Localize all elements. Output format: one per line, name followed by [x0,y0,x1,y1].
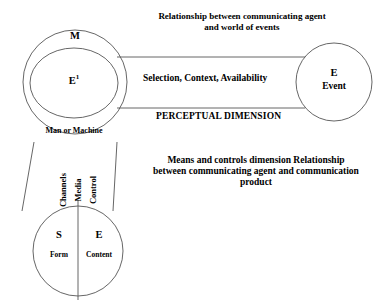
event-letter: E [320,67,348,79]
product-right-letter: E [88,229,110,241]
annotation-world-of-events: Relationship between communicating agent… [152,11,332,32]
product-left-caption: Form [42,251,76,260]
agent-inner-label-base: E [69,75,76,86]
diagram-shapes [0,0,392,306]
agent-caption: Man or Machine [36,126,112,135]
diagram-canvas: M E1 Man or Machine E Event S Form E Con… [0,0,392,306]
annotation-selection: Selection, Context, Availability [143,73,295,84]
funnel-line-right [113,142,117,211]
event-name: Event [310,81,358,92]
funnel-line-left [22,142,34,211]
agent-outer-label: M [62,30,88,42]
product-left-letter: S [48,229,70,241]
annotation-perceptual-dimension: PERCEPTUAL DIMENSION [156,111,316,122]
agent-inner-label: E1 [57,73,91,87]
channel-label-media: Media [73,168,83,212]
channel-label-control: Control [88,168,98,212]
channel-label-channels: Channels [58,168,68,212]
agent-inner-label-superscript: 1 [76,73,80,81]
annotation-means-and-controls: Means and controls dimension Relationshi… [150,155,362,189]
product-right-caption: Content [80,251,118,260]
